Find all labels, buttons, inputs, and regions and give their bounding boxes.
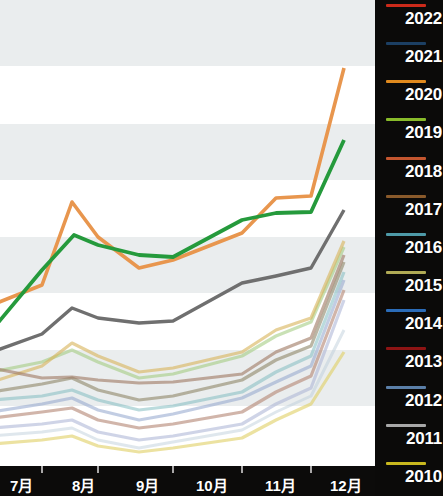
legend-item-2012[interactable]: 2012 xyxy=(375,382,443,420)
chart-band xyxy=(0,406,375,465)
x-axis-label-2: 9月 xyxy=(136,474,159,495)
legend-label-2015: 2015 xyxy=(378,276,442,296)
legend-item-2022[interactable]: 2022 xyxy=(375,0,443,38)
legend-label-2014: 2014 xyxy=(378,314,442,334)
legend-label-2010: 2010 xyxy=(378,467,442,487)
x-axis-label-4: 11月 xyxy=(265,474,296,495)
legend-item-2021[interactable]: 2021 xyxy=(375,38,443,76)
legend-item-2011[interactable]: 2011 xyxy=(375,420,443,458)
legend-swatch-2011 xyxy=(386,424,426,427)
legend-label-2013: 2013 xyxy=(378,352,442,372)
legend-label-2012: 2012 xyxy=(378,391,442,411)
x-axis-ticks-svg xyxy=(0,465,375,496)
x-axis-label-0: 7月 xyxy=(10,474,33,495)
legend-item-2013[interactable]: 2013 xyxy=(375,343,443,381)
legend-swatch-2016 xyxy=(386,233,426,236)
legend-swatch-2018 xyxy=(386,157,426,160)
x-axis-label-1: 8月 xyxy=(72,474,95,495)
legend-item-2020[interactable]: 2020 xyxy=(375,76,443,114)
chart-screenshot: 7月8月9月10月11月12月 202220212020201920182017… xyxy=(0,0,443,496)
legend-item-2017[interactable]: 2017 xyxy=(375,191,443,229)
x-axis: 7月8月9月10月11月12月 xyxy=(0,465,375,496)
x-axis-label-5: 12月 xyxy=(330,474,362,495)
legend-swatch-2021 xyxy=(386,42,426,45)
legend-swatch-2015 xyxy=(386,271,426,274)
legend-label-2011: 2011 xyxy=(378,429,442,449)
chart-band xyxy=(0,0,375,66)
legend-label-2018: 2018 xyxy=(378,162,442,182)
legend-item-2015[interactable]: 2015 xyxy=(375,267,443,305)
legend-swatch-2010 xyxy=(386,462,426,465)
legend-item-2016[interactable]: 2016 xyxy=(375,229,443,267)
legend-swatch-2012 xyxy=(386,386,426,389)
chart-legend[interactable]: 2022202120202019201820172016201520142013… xyxy=(375,0,443,496)
legend-item-2018[interactable]: 2018 xyxy=(375,153,443,191)
legend-item-2014[interactable]: 2014 xyxy=(375,305,443,343)
x-axis-label-3: 10月 xyxy=(196,474,228,495)
legend-label-2021: 2021 xyxy=(378,47,442,67)
legend-swatch-2013 xyxy=(386,347,426,350)
legend-label-2022: 2022 xyxy=(378,9,442,29)
legend-label-2017: 2017 xyxy=(378,200,442,220)
legend-item-2010[interactable]: 2010 xyxy=(375,458,443,496)
legend-swatch-2014 xyxy=(386,309,426,312)
chart-band xyxy=(0,66,375,124)
legend-label-2020: 2020 xyxy=(378,85,442,105)
legend-swatch-2017 xyxy=(386,195,426,198)
background-bands xyxy=(0,0,375,465)
chart-plot-area xyxy=(0,0,375,465)
chart-band xyxy=(0,180,375,237)
legend-swatch-2020 xyxy=(386,80,426,83)
legend-item-2019[interactable]: 2019 xyxy=(375,114,443,152)
legend-label-2016: 2016 xyxy=(378,238,442,258)
legend-swatch-2019 xyxy=(386,118,426,121)
legend-label-2019: 2019 xyxy=(378,123,442,143)
legend-swatch-2022 xyxy=(386,4,426,7)
line-chart-svg xyxy=(0,0,375,465)
